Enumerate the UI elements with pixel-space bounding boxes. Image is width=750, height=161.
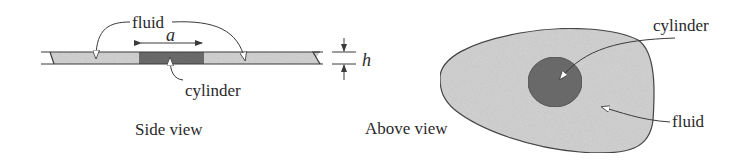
- side-view-cylinder-label: cylinder: [185, 81, 241, 100]
- side-view-fluid-label: fluid: [132, 13, 165, 32]
- side-view-cylinder: [139, 52, 204, 64]
- side-view-caption: Side view: [135, 120, 203, 139]
- above-view-fluid-label: fluid: [672, 112, 705, 131]
- above-view-cylinder-label: cylinder: [653, 16, 709, 35]
- side-view: a fluid cylinder h Side view: [41, 13, 371, 139]
- above-view: cylinder fluid Above view: [365, 16, 709, 153]
- height-symbol-h: h: [362, 50, 371, 70]
- above-view-caption: Above view: [365, 119, 448, 138]
- fluid-cylinder-diagram: a fluid cylinder h Side view cylinder fl…: [0, 0, 750, 161]
- width-symbol-a: a: [166, 25, 175, 45]
